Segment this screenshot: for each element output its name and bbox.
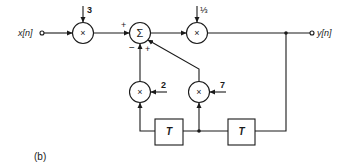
- block-diagram: x[n] y[n] × 3 Σ + − + × ⅓ × 2 × 7 T T (b…: [0, 0, 356, 164]
- summer-symbol: Σ: [137, 27, 144, 39]
- delay1-label: T: [166, 126, 173, 137]
- input-label: x[n]: [17, 28, 33, 38]
- summer-sign-right: +: [145, 44, 150, 54]
- fb2-to-summer-line: [148, 40, 199, 82]
- mult-output-gain: ⅓: [200, 5, 208, 15]
- figure-caption: (b): [34, 151, 46, 162]
- output-label: y[n]: [316, 28, 332, 38]
- mult-fb2-symbol: ×: [196, 87, 201, 97]
- mult-fb1-gain: 2: [161, 80, 166, 90]
- input-terminal-icon: [40, 31, 44, 35]
- mult-fb2-gain: 7: [220, 80, 225, 90]
- delay2-to-output-line: [255, 33, 286, 131]
- delay2-label: T: [238, 126, 245, 137]
- output-terminal-icon: [310, 31, 314, 35]
- summer-sign-left: −: [129, 42, 135, 53]
- mult-input-symbol: ×: [80, 28, 85, 38]
- delay-junction-dot: [197, 129, 201, 133]
- delay1-to-mult2-line: [140, 103, 155, 131]
- output-junction-dot: [284, 31, 288, 35]
- mult-input-gain: 3: [87, 5, 92, 15]
- summer-sign-input: +: [121, 20, 126, 30]
- mult-fb1-symbol: ×: [137, 87, 142, 97]
- mult-output-symbol: ×: [194, 28, 199, 38]
